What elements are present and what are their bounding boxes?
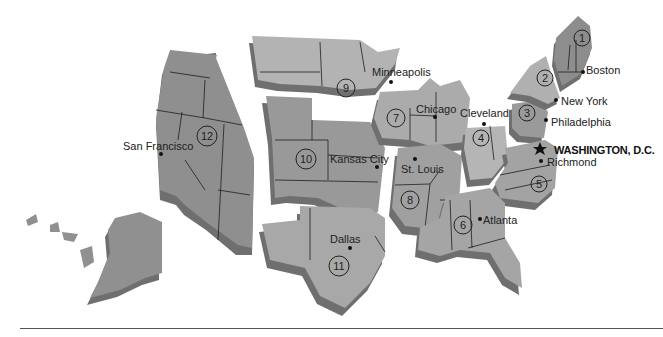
city-label-dallas: Dallas <box>330 233 361 245</box>
divider-line <box>20 328 663 329</box>
city-label-san-francisco: San Francisco <box>123 140 193 152</box>
district-2 <box>507 56 560 110</box>
svg-text:1: 1 <box>579 32 585 44</box>
city-label-philadelphia: Philadelphia <box>551 116 611 128</box>
svg-text:3: 3 <box>524 107 530 119</box>
city-label-cleveland: Cleveland <box>460 107 509 119</box>
city-label-st-louis: St. Louis <box>401 163 444 175</box>
city-label-new-york: New York <box>561 95 607 107</box>
alaska <box>26 212 162 305</box>
city-label-chicago: Chicago <box>416 103 456 115</box>
svg-text:5: 5 <box>536 178 542 190</box>
svg-text:9: 9 <box>343 82 349 94</box>
svg-text:6: 6 <box>460 219 466 231</box>
district-1 <box>552 16 592 92</box>
svg-text:10: 10 <box>300 153 312 165</box>
city-label-boston: Boston <box>586 64 620 76</box>
city-label-minneapolis: Minneapolis <box>372 66 431 78</box>
city-label-richmond: Richmond <box>547 156 597 168</box>
svg-text:11: 11 <box>333 260 344 272</box>
district-7 <box>371 78 470 153</box>
district-12 <box>156 50 254 255</box>
district-11 <box>259 206 385 316</box>
city-label-kansas-city: Kansas City <box>330 153 389 165</box>
capital-label: WASHINGTON, D.C. <box>554 144 655 156</box>
svg-text:4: 4 <box>478 132 484 144</box>
svg-text:12: 12 <box>201 130 213 142</box>
svg-text:7: 7 <box>393 112 399 124</box>
svg-text:2: 2 <box>542 72 548 84</box>
svg-text:8: 8 <box>407 194 413 206</box>
federal-reserve-map: 1 2 3 4 5 6 7 8 9 10 11 12 <box>0 0 663 337</box>
city-label-atlanta: Atlanta <box>483 214 517 226</box>
